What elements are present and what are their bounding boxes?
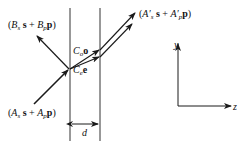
- reflected-arrow: [37, 36, 69, 69]
- reflected-label: (Bs s + Bpp): [8, 19, 56, 32]
- y-axis-label: y: [173, 39, 179, 50]
- transmitted-arrow-2: [100, 24, 132, 57]
- thickness-label: d: [82, 127, 88, 138]
- z-axis-label: z: [232, 101, 237, 112]
- transmitted-label: (A′s s + A′pp): [139, 8, 191, 21]
- extraordinary-wave-label: Cee: [73, 64, 88, 77]
- incident-label: (As s + App): [8, 107, 56, 120]
- incident-arrow: [34, 70, 68, 104]
- transmitted-arrow-1: [100, 13, 135, 50]
- slab-diagram: d y z (Bs s + Bpp) (As s + App) (A′s s +…: [0, 0, 245, 149]
- ordinary-wave-label: Coo: [73, 45, 88, 58]
